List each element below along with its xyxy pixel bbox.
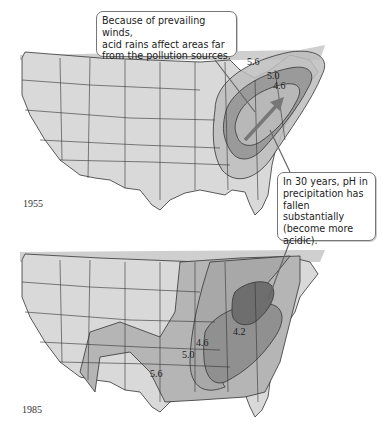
ph-label-5.6-1955: 5.6 bbox=[247, 56, 260, 67]
callout-line: (become more bbox=[283, 223, 370, 235]
callout-ph-change: In 30 years, pH in precipitation has fal… bbox=[277, 172, 376, 241]
callout-line: acid rains affect areas far bbox=[102, 39, 231, 51]
us-map-1985: 4.2 4.6 5.0 5.6 bbox=[0, 222, 383, 446]
map-1985: 4.2 4.6 5.0 5.6 1985 bbox=[0, 222, 383, 446]
year-label-1955: 1955 bbox=[23, 198, 43, 209]
callout-line: Because of prevailing winds, bbox=[102, 15, 231, 39]
ph-label-4.6-1985: 4.6 bbox=[196, 337, 209, 348]
ph-label-5.0-1985: 5.0 bbox=[182, 349, 195, 360]
callout-line: from the pollution sources. bbox=[102, 50, 231, 62]
ph-label-4.2-1985: 4.2 bbox=[233, 326, 246, 337]
callout-line: fallen substantially bbox=[283, 200, 370, 224]
callout-line: In 30 years, pH in bbox=[283, 176, 370, 188]
callout-line: precipitation has bbox=[283, 188, 370, 200]
ph-label-4.6-1955: 4.6 bbox=[273, 80, 286, 91]
year-label-1985: 1985 bbox=[22, 404, 42, 415]
callout-line: acidic). bbox=[283, 235, 370, 247]
callout-prevailing-winds: Because of prevailing winds, acid rains … bbox=[96, 11, 237, 57]
ph-label-5.6-1985: 5.6 bbox=[150, 368, 163, 379]
